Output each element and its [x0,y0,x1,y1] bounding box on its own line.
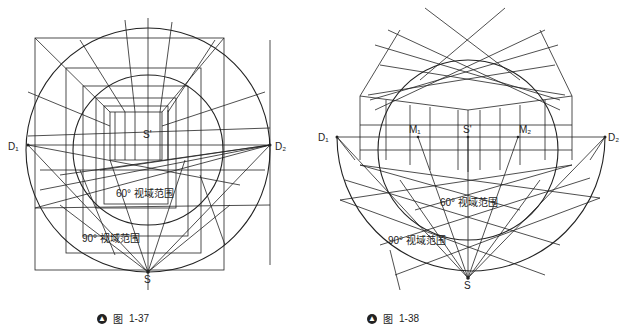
label-fov60-fig38: 60° 视域范围 [440,196,498,208]
label-s-prime-fig37: S' [143,129,152,140]
label-fov60-fig37: 60° 视域范围 [116,187,174,199]
arrow-up-circle-icon: ▲ [367,314,377,324]
arrow-up-circle-icon: ▲ [97,314,107,324]
label-m2-fig38: M₂ [519,124,531,135]
caption-fig-1-38: ▲ 图 1-38 [367,311,419,326]
label-s-prime-fig38: S' [463,124,472,135]
label-d2-fig38: D₂ [608,132,619,143]
label-d1-fig38: D₁ [318,132,329,143]
label-m1-fig38: M₁ [409,124,421,135]
caption-fig-1-37: ▲ 图 1-37 [97,311,149,326]
label-d1-fig37: D₁ [8,141,19,152]
caption-number: 1-38 [399,313,419,324]
label-fov90-fig37: 90° 视域范围 [82,232,140,244]
label-fov90-fig38: 90° 视域范围 [388,234,446,246]
figure-1-37-drawing [26,18,270,290]
caption-number: 1-37 [129,313,149,324]
label-s-fig37: S [144,274,151,285]
label-s-fig38: S [464,280,471,291]
caption-prefix: 图 [113,311,123,326]
figure-1-38-drawing [337,8,605,290]
perspective-diagrams: D₁ D₂ S' S 60° 视域范围 90° 视域范围 [0,0,620,329]
label-d2-fig37: D₂ [275,141,286,152]
caption-prefix: 图 [383,311,393,326]
